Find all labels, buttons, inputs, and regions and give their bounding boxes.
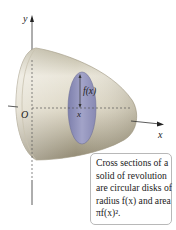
caption-line-1: Cross sections of a bbox=[96, 157, 167, 170]
x-position-label: x bbox=[77, 110, 81, 119]
origin-label: O bbox=[21, 110, 28, 120]
x-axis-label: x bbox=[158, 130, 162, 140]
caption-box: Cross sections of a solid of revolution … bbox=[90, 153, 172, 225]
y-axis-label: y bbox=[23, 14, 27, 24]
caption-line-2: solid of revolution bbox=[96, 170, 167, 183]
solid-of-revolution-figure: y x O f(x) x Cross sections of a solid o… bbox=[0, 0, 176, 230]
y-axis-arrow-icon bbox=[30, 15, 34, 22]
x-axis-arrow-icon bbox=[157, 122, 164, 127]
radius-label: f(x) bbox=[83, 87, 96, 97]
caption-line-5: πf(x)². bbox=[96, 207, 167, 220]
caption-line-3: are circular disks of bbox=[96, 182, 167, 195]
caption-line-4: radius f(x) and area bbox=[96, 195, 167, 208]
